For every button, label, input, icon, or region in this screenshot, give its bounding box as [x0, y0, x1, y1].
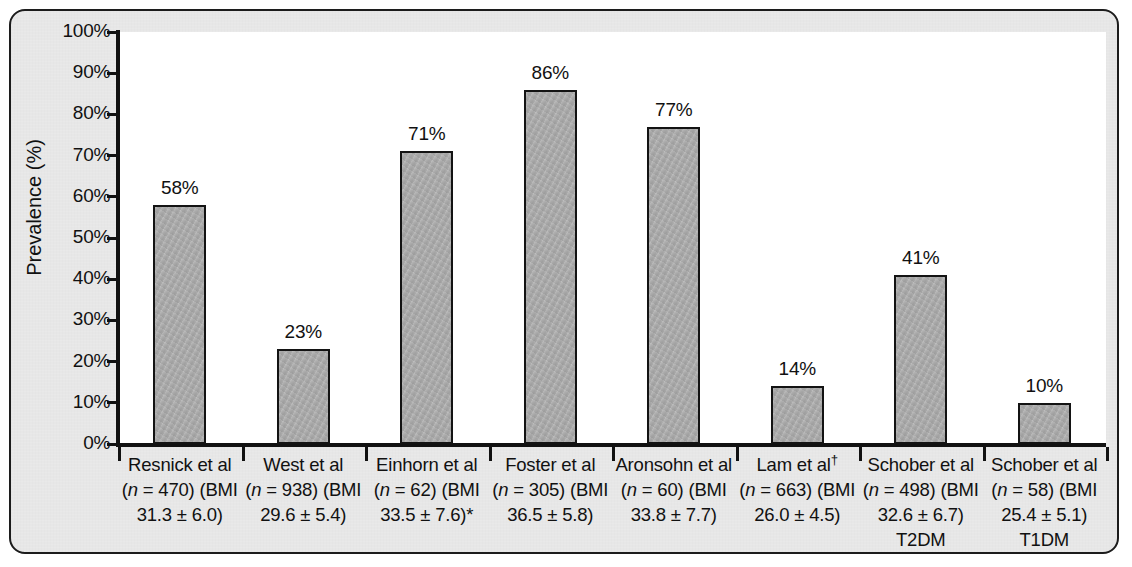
category-label-author: Schober et al [977, 452, 1113, 477]
category-label: Resnick et al(n = 470) (BMI31.3 ± 6.0) [112, 452, 248, 527]
category-label: Aronsohn et al(n = 60) (BMI33.8 ± 7.7) [606, 452, 742, 527]
bar [400, 151, 453, 444]
y-tick-label: 90% [30, 61, 110, 81]
category-label-bmi: 29.6 ± 5.4) [236, 502, 372, 527]
category-label: West et al(n = 938) (BMI29.6 ± 5.4) [236, 452, 372, 527]
category-label-bmi: 31.3 ± 6.0) [112, 502, 248, 527]
category-label-bmi: 26.0 ± 4.5) [730, 502, 866, 527]
category-label: Schober et al(n = 498) (BMI32.6 ± 6.7)T2… [853, 452, 989, 552]
category-label-bmi: 33.8 ± 7.7) [606, 502, 742, 527]
dagger-marker: † [831, 452, 838, 467]
y-tick-label-text: 0% [83, 432, 110, 454]
bar [153, 205, 206, 444]
category-label-bmi: 36.5 ± 5.8) [483, 502, 619, 527]
category-label: Foster et al(n = 305) (BMI36.5 ± 5.8) [483, 452, 619, 527]
category-label-sample-size: (n = 305) (BMI [483, 477, 619, 502]
bar [524, 90, 577, 444]
category-label: Lam et al†(n = 663) (BMI26.0 ± 4.5) [730, 452, 866, 527]
category-label-author: Resnick et al [112, 452, 248, 477]
y-tick-label-text: 10% [73, 391, 110, 413]
category-label-bmi: 25.4 ± 5.1) [977, 502, 1113, 527]
y-tick-label-text: 100% [63, 20, 110, 42]
y-tick-label-text: 40% [73, 267, 110, 289]
bar [277, 349, 330, 444]
y-tick-label-text: 70% [73, 144, 110, 166]
y-tick-label-text: 90% [73, 61, 110, 83]
y-tick-label: 100% [30, 20, 110, 40]
y-tick-label-text: 50% [73, 226, 110, 248]
category-label-author: Einhorn et al [359, 452, 495, 477]
category-label-sample-size: (n = 58) (BMI [977, 477, 1113, 502]
category-label-sample-size: (n = 663) (BMI [730, 477, 866, 502]
y-tick-label: 20% [30, 350, 110, 370]
bar-value-label: 71% [367, 123, 487, 145]
category-label-author: West et al [236, 452, 372, 477]
category-label-author: Foster et al [483, 452, 619, 477]
category-label: Schober et al(n = 58) (BMI25.4 ± 5.1)T1D… [977, 452, 1113, 552]
bar-value-label: 41% [861, 247, 981, 269]
y-axis-title: Prevalence (%) [23, 98, 46, 318]
bar [894, 275, 947, 444]
bar [647, 127, 700, 444]
bar-value-label: 58% [120, 177, 240, 199]
x-axis-line [116, 443, 1106, 447]
category-label-diabetes-type: T1DM [977, 527, 1113, 552]
y-tick-label: 10% [30, 391, 110, 411]
y-tick-label-text: 60% [73, 185, 110, 207]
bar-value-label: 86% [490, 62, 610, 84]
y-tick-label-text: 30% [73, 308, 110, 330]
category-label-sample-size: (n = 470) (BMI [112, 477, 248, 502]
figure-panel: 100%90%80%70%60%50%40%30%20%10%0% Preval… [0, 0, 1132, 567]
category-label-sample-size: (n = 938) (BMI [236, 477, 372, 502]
category-label-bmi: 32.6 ± 6.7) [853, 502, 989, 527]
bar [771, 386, 824, 444]
plot-area [118, 32, 1106, 445]
category-label-diabetes-type: T2DM [853, 527, 989, 552]
bar-value-label: 14% [737, 358, 857, 380]
category-label-sample-size: (n = 498) (BMI [853, 477, 989, 502]
category-label: Einhorn et al(n = 62) (BMI33.5 ± 7.6)* [359, 452, 495, 527]
bar-value-label: 10% [984, 375, 1104, 397]
y-tick-label-text: 80% [73, 102, 110, 124]
category-label-sample-size: (n = 62) (BMI [359, 477, 495, 502]
category-label-bmi: 33.5 ± 7.6)* [359, 502, 495, 527]
category-label-sample-size: (n = 60) (BMI [606, 477, 742, 502]
category-label-author: Aronsohn et al [606, 452, 742, 477]
bar [1018, 403, 1071, 444]
y-tick-label: 0% [30, 432, 110, 452]
bar-value-label: 23% [243, 321, 363, 343]
bar-value-label: 77% [614, 99, 734, 121]
y-tick-label-text: 20% [73, 350, 110, 372]
category-label-author: Schober et al [853, 452, 989, 477]
category-label-author: Lam et al† [730, 452, 866, 477]
